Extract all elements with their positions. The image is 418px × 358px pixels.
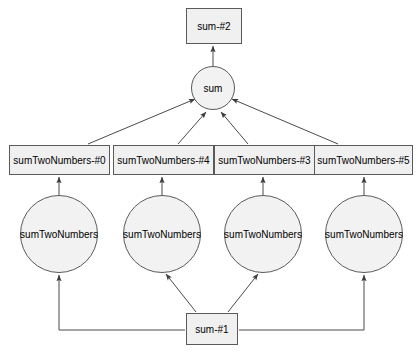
edge-box4-to-sum (178, 112, 206, 144)
node-label: sumTwoNumbers-#0 (13, 155, 105, 166)
node-sumtwonumbers-5-box[interactable]: sumTwoNumbers-#5 (314, 145, 413, 175)
edge-sum1-to-circle3 (228, 274, 258, 312)
node-label: sumTwoNumbers (224, 229, 302, 240)
node-sumtwonumbers-circle-3[interactable]: sumTwoNumbers (224, 195, 302, 273)
edge-box5-to-sum (232, 99, 338, 144)
node-sumtwonumbers-0-box[interactable]: sumTwoNumbers-#0 (9, 145, 110, 175)
node-sumtwonumbers-circle-1[interactable]: sumTwoNumbers (20, 195, 98, 273)
node-sum-source-box[interactable]: sum-#1 (186, 313, 238, 345)
diagram-canvas: sum-#2 sum sumTwoNumbers-#0 sumTwoNumber… (0, 0, 418, 358)
edge-box3-to-sum (221, 112, 248, 144)
edge-box0-to-sum (88, 99, 195, 144)
node-label: sum (204, 83, 223, 94)
node-sumtwonumbers-circle-4[interactable]: sumTwoNumbers (325, 195, 403, 273)
node-label: sum-#1 (195, 324, 228, 335)
node-sumtwonumbers-circle-2[interactable]: sumTwoNumbers (123, 195, 201, 273)
node-sum-circle[interactable]: sum (191, 66, 235, 110)
node-label: sumTwoNumbers (123, 229, 201, 240)
edge-layer (0, 0, 418, 358)
node-sumtwonumbers-4-box[interactable]: sumTwoNumbers-#4 (113, 145, 214, 175)
node-label: sumTwoNumbers-#5 (317, 155, 409, 166)
node-sum-result-box[interactable]: sum-#2 (186, 8, 242, 44)
node-label: sumTwoNumbers (325, 229, 403, 240)
node-label: sumTwoNumbers-#3 (218, 155, 310, 166)
node-label: sumTwoNumbers-#4 (117, 155, 209, 166)
node-sumtwonumbers-3-box[interactable]: sumTwoNumbers-#3 (214, 145, 315, 175)
node-label: sumTwoNumbers (20, 229, 98, 240)
node-label: sum-#2 (197, 21, 230, 32)
edge-sum1-to-circle1 (59, 275, 185, 330)
edge-sum1-to-circle4 (239, 275, 364, 330)
edge-sum1-to-circle2 (166, 274, 196, 312)
